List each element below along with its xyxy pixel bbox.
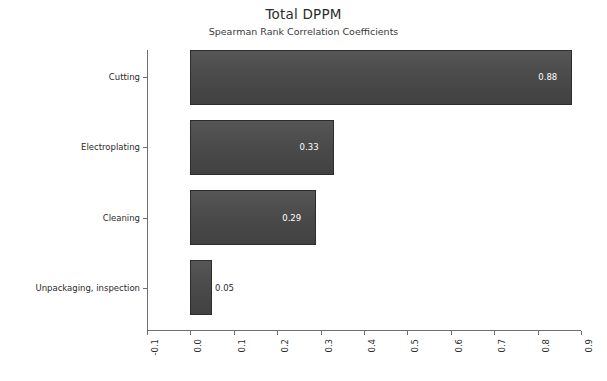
bar-unpackaging-inspection[interactable] <box>190 260 212 315</box>
y-axis-tick <box>143 218 147 219</box>
x-axis-tick <box>364 331 365 335</box>
x-axis-tick <box>538 331 539 335</box>
bar-value-label: 0.05 <box>215 283 234 293</box>
bar-value-label: 0.29 <box>282 213 301 223</box>
y-axis-category-label: Electroplating <box>81 142 140 152</box>
bar-row: 0.29 <box>147 190 581 245</box>
title-block: Total DPPM Spearman Rank Correlation Coe… <box>0 6 607 39</box>
x-axis-tick <box>321 331 322 335</box>
x-axis-tick <box>277 331 278 335</box>
y-axis-category-label: Cleaning <box>103 213 140 223</box>
bar-value-label: 0.88 <box>538 72 557 82</box>
x-axis-tick <box>147 331 148 335</box>
bar-row: 0.05 <box>147 260 581 315</box>
x-axis-tick <box>581 331 582 335</box>
x-axis-tick <box>407 331 408 335</box>
plot-area: 0.880.330.290.05 CuttingElectroplatingCl… <box>147 50 581 331</box>
x-axis-tick-label: 0.5 <box>411 339 420 353</box>
bar-value-label: 0.33 <box>300 142 319 152</box>
y-axis-category-label: Unpackaging, inspection <box>35 283 140 293</box>
y-axis-tick <box>143 147 147 148</box>
y-axis-tick <box>143 288 147 289</box>
x-axis-tick-label: 0.1 <box>238 339 247 353</box>
x-axis-tick-label: -0.1 <box>151 339 160 356</box>
x-axis-tick <box>234 331 235 335</box>
x-axis-tick <box>494 331 495 335</box>
x-axis-tick-label: 0.3 <box>325 339 334 353</box>
x-axis-tick-label: 0.0 <box>194 339 203 353</box>
x-axis-tick-label: 0.9 <box>585 339 594 353</box>
y-axis-category-label: Cutting <box>109 72 140 82</box>
chart-subtitle: Spearman Rank Correlation Coefficients <box>0 25 607 39</box>
x-axis-tick <box>451 331 452 335</box>
x-axis-tick-label: 0.7 <box>498 339 507 353</box>
bar-row: 0.88 <box>147 50 581 105</box>
bar-cutting[interactable] <box>190 50 572 105</box>
x-axis-tick-label: 0.6 <box>455 339 464 353</box>
x-axis-tick-label: 0.8 <box>542 339 551 353</box>
x-axis-tick-label: 0.4 <box>368 339 377 353</box>
bar-chart-figure: Total DPPM Spearman Rank Correlation Coe… <box>0 0 607 381</box>
x-axis-tick <box>190 331 191 335</box>
x-axis-tick-label: 0.2 <box>281 339 290 353</box>
chart-title: Total DPPM <box>0 6 607 23</box>
y-axis-tick <box>143 77 147 78</box>
bar-row: 0.33 <box>147 120 581 175</box>
